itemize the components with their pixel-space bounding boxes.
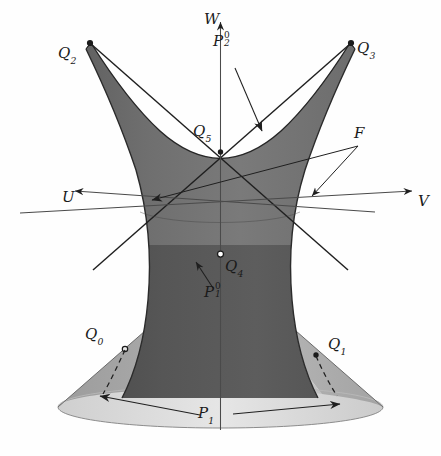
point-label-q4: Q4 [225, 259, 243, 276]
annotation-p1b-base: P [198, 404, 208, 422]
point-q4-marker [218, 251, 224, 257]
point-label-q3: Q3 [357, 41, 375, 58]
annotation-p2-base: P [213, 32, 223, 50]
point-label-q2-sub: 2 [70, 55, 76, 66]
point-label-q5-sub: 5 [205, 133, 211, 144]
point-q2-marker [87, 40, 93, 46]
leader-family-right [312, 146, 358, 196]
leader-p2-upper [235, 68, 262, 131]
point-q3-marker [348, 40, 354, 46]
figure-canvas: W U V Q2 Q3 Q5 Q4 Q0 Q1 P 0 2 P 0 1 [0, 0, 441, 456]
axis-label-w: W [204, 12, 219, 27]
point-label-q2-base: Q [58, 44, 70, 62]
hyperboloid-upper-shade [70, 30, 380, 245]
point-label-q0-sub: 0 [97, 336, 103, 347]
annotation-family-label: F [354, 126, 364, 141]
point-label-q4-sub: 4 [237, 268, 243, 279]
point-label-q1-sub: 1 [340, 346, 346, 357]
point-label-q2: Q2 [58, 46, 76, 63]
point-q5-marker [218, 149, 223, 154]
annotation-p2-sub: 2 [224, 39, 230, 48]
axis-label-v: V [418, 194, 429, 209]
point-label-q4-base: Q [225, 257, 237, 275]
point-label-q1-base: Q [328, 335, 340, 353]
point-label-q0: Q0 [85, 327, 103, 344]
annotation-p1-upper: P 0 1 [204, 285, 214, 300]
axis-label-u: U [62, 190, 75, 205]
point-label-q3-base: Q [357, 39, 369, 57]
point-label-q5: Q5 [193, 124, 211, 141]
annotation-p1u-base: P [204, 283, 214, 301]
point-label-q5-base: Q [193, 122, 205, 140]
annotation-p1b-sub: 1 [208, 415, 214, 426]
hyperboloid-diagram-svg [0, 0, 441, 456]
point-label-q0-base: Q [85, 325, 97, 343]
point-label-q1: Q1 [328, 337, 346, 354]
annotation-p1u-sub: 1 [215, 290, 221, 299]
annotation-p2-upper: P 0 2 [213, 34, 223, 49]
annotation-p1-base: P1 [198, 406, 214, 423]
point-label-q3-sub: 3 [369, 50, 375, 61]
